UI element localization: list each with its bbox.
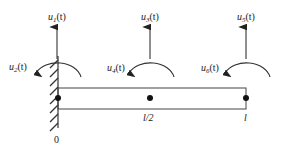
label-u2: u2(t) [9, 61, 27, 74]
label-u3: u3(t) [141, 11, 159, 24]
node-mid-dot [147, 95, 153, 101]
label-u6: u6(t) [201, 62, 219, 75]
u4-rotation-arc-icon [129, 63, 174, 77]
position-label-0: 0 [54, 134, 59, 145]
position-label-half-l: l/2 [143, 112, 154, 123]
u6-rotation-arc-icon [225, 63, 270, 77]
label-u1: u1(t) [48, 11, 66, 24]
label-u5: u5(t) [237, 11, 255, 24]
label-u4: u4(t) [107, 62, 125, 75]
node-end-dot [243, 95, 249, 101]
position-label-l: l [244, 112, 247, 123]
diagram-canvas: u1(t) u3(t) u5(t) u2(t) u4(t) u6(t) 0 l/… [0, 0, 284, 151]
node-0-dot [55, 95, 61, 101]
fixed-wall-support [50, 56, 58, 131]
beam-diagram: u1(t) u3(t) u5(t) u2(t) u4(t) u6(t) 0 l/… [0, 0, 284, 151]
